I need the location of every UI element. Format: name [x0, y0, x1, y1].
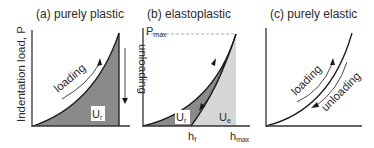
panel-a-loading-label: loading [52, 61, 88, 94]
arrowhead-icon [97, 58, 102, 66]
arrowhead-icon [330, 58, 335, 65]
indentation-diagram: Indentation load, P (a) purely plastic l… [0, 0, 374, 148]
panel-b: (b) elastoplastic Pmax Ur Ue hf hmax [143, 7, 250, 143]
panel-c-loading-label: loading [289, 63, 324, 98]
panel-a-title: (a) purely plastic [36, 7, 124, 21]
panel-b-hmax-label: hmax [230, 130, 250, 143]
y-axis-label: Indentation load, P [15, 26, 27, 122]
panel-c: (c) purely elastic loading unloading [266, 7, 363, 127]
panel-b-pmax-label: Pmax [146, 25, 167, 38]
panel-c-title: (c) purely elastic [270, 7, 357, 21]
arrowhead-icon [122, 98, 128, 104]
panel-a: (a) purely plastic loading unloading Ur [32, 7, 149, 127]
panel-b-title: (b) elastoplastic [147, 7, 231, 21]
panel-b-hf-label: hf [188, 130, 196, 143]
